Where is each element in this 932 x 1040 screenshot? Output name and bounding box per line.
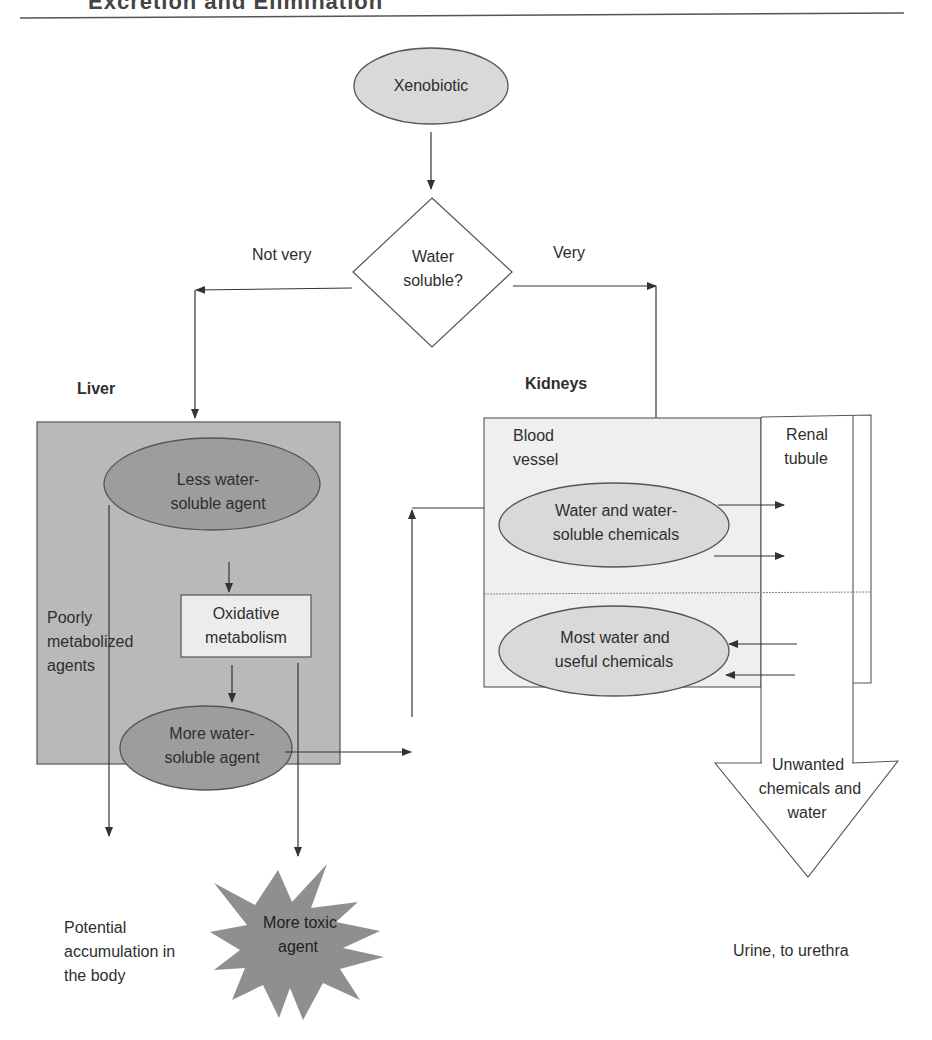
poorly-line2: metabolized <box>47 631 133 653</box>
accumulation-line1: Potential <box>64 917 126 939</box>
decision-label-line1: Water <box>412 246 454 268</box>
accumulation-line2: accumulation in <box>64 941 175 963</box>
more-soluble-line1: More water- <box>169 723 254 745</box>
liver-title: Liver <box>77 378 115 400</box>
renal-tubule-line2: tubule <box>784 448 828 470</box>
header-rule <box>20 13 904 18</box>
most-water-line1: Most water and <box>560 627 669 649</box>
more-toxic-line1: More toxic <box>263 912 337 934</box>
more-toxic-line2: agent <box>278 936 318 958</box>
urine-label: Urine, to urethra <box>733 940 849 962</box>
water-chemicals-line1: Water and water- <box>555 500 677 522</box>
blood-vessel-line1: Blood <box>513 425 554 447</box>
water-chemicals-line2: soluble chemicals <box>553 524 679 546</box>
xenobiotic-label: Xenobiotic <box>394 75 469 97</box>
accumulation-line3: the body <box>64 965 125 987</box>
kidneys-title: Kidneys <box>525 373 587 395</box>
oxidative-line2: metabolism <box>205 627 287 649</box>
most-water-line2: useful chemicals <box>555 651 673 673</box>
unwanted-line3: water <box>787 802 826 824</box>
decision-label-line2: soluble? <box>403 270 463 292</box>
branch-very-label: Very <box>553 242 585 264</box>
branch-not-very-label: Not very <box>252 244 312 266</box>
arrow-not-very <box>196 288 352 290</box>
poorly-line1: Poorly <box>47 607 92 629</box>
oxidative-line1: Oxidative <box>213 603 280 625</box>
renal-tubule-line1: Renal <box>786 424 828 446</box>
more-soluble-line2: soluble agent <box>164 747 259 769</box>
unwanted-line1: Unwanted <box>772 754 844 776</box>
unwanted-line2: chemicals and <box>759 778 861 800</box>
less-soluble-line2: soluble agent <box>170 493 265 515</box>
excretion-flowchart <box>0 0 932 1040</box>
blood-vessel-line2: vessel <box>513 449 558 471</box>
poorly-line3: agents <box>47 655 95 677</box>
less-soluble-line1: Less water- <box>177 469 260 491</box>
